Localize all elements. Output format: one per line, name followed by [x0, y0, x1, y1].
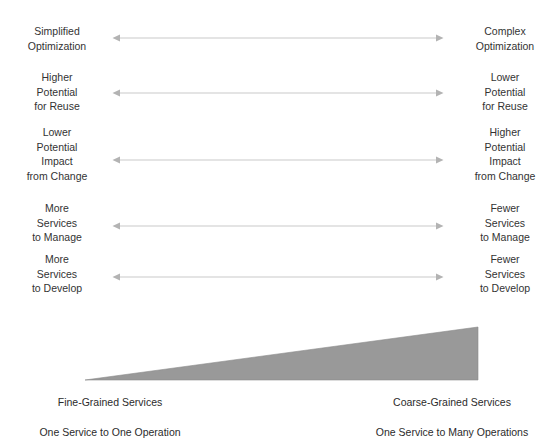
- axis-endpoint-left-line2: One Service to One Operation: [10, 425, 210, 440]
- double-arrow-icon-reuse-potential: [111, 87, 445, 99]
- tradeoff-left-label-services-to-manage: More Services to Manage: [8, 201, 106, 245]
- tradeoff-left-label-services-to-develop: More Services to Develop: [8, 252, 106, 296]
- tradeoff-left-label-optimization: Simplified Optimization: [8, 24, 106, 53]
- tradeoff-right-label-services-to-manage: Fewer Services to Manage: [454, 201, 556, 245]
- double-arrow-icon-optimization: [111, 32, 445, 44]
- tradeoff-row-services-to-manage: More Services to Manage Fewer Services t…: [0, 198, 560, 256]
- tradeoff-row-services-to-develop: More Services to Develop Fewer Services …: [0, 250, 560, 308]
- tradeoff-right-label-reuse-potential: Lower Potential for Reuse: [454, 70, 556, 114]
- tradeoff-left-label-impact-from-change: Lower Potential Impact from Change: [8, 125, 106, 183]
- double-arrow-icon-services-to-develop: [111, 271, 445, 283]
- granularity-axis: Fine-Grained Services One Service to One…: [0, 318, 560, 409]
- tradeoff-right-label-optimization: Complex Optimization: [454, 24, 556, 53]
- double-arrow-icon-impact-from-change: [111, 154, 445, 166]
- granularity-wedge-icon: [0, 318, 560, 384]
- axis-endpoint-right-line2: One Service to Many Operations: [350, 425, 554, 440]
- double-arrow-icon-services-to-manage: [111, 220, 445, 232]
- tradeoff-right-label-services-to-develop: Fewer Services to Develop: [454, 252, 556, 296]
- axis-endpoint-left-line1: Fine-Grained Services: [10, 395, 210, 410]
- axis-endpoint-right-line1: Coarse-Grained Services: [350, 395, 554, 410]
- tradeoff-left-label-reuse-potential: Higher Potential for Reuse: [8, 70, 106, 114]
- axis-endpoint-label-left: Fine-Grained Services One Service to One…: [10, 380, 210, 442]
- tradeoff-row-impact-from-change: Lower Potential Impact from Change Highe…: [0, 124, 560, 196]
- axis-endpoint-label-right: Coarse-Grained Services One Service to M…: [350, 380, 554, 442]
- tradeoff-right-label-impact-from-change: Higher Potential Impact from Change: [454, 125, 556, 183]
- tradeoff-row-optimization: Simplified Optimization Complex Optimiza…: [0, 10, 560, 58]
- tradeoff-row-reuse-potential: Higher Potential for Reuse Lower Potenti…: [0, 65, 560, 123]
